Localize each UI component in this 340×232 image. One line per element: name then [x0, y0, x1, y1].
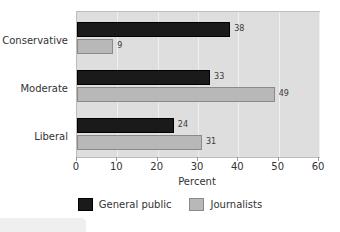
- legend-label: General public: [99, 199, 172, 210]
- x-tick-label-20: 20: [142, 161, 172, 172]
- bar-value-general-liberal: 24: [178, 117, 188, 132]
- category-label-liberal: Liberal: [0, 131, 68, 142]
- bar-general-liberal: [77, 118, 174, 133]
- cropped-corner-plate: [0, 218, 86, 232]
- x-tick-label-50: 50: [263, 161, 293, 172]
- category-label-moderate: Moderate: [0, 83, 68, 94]
- x-tick-label-60: 60: [303, 161, 333, 172]
- x-tick-label-10: 10: [101, 161, 131, 172]
- bar-general-conservative: [77, 22, 230, 37]
- legend-swatch-icon: [78, 198, 93, 211]
- bar-chart-figure: ConservativeModerateLiberal 38933492431 …: [0, 0, 340, 232]
- bar-general-moderate: [77, 70, 210, 85]
- bar-value-general-moderate: 33: [214, 69, 224, 84]
- bar-value-journalists-moderate: 49: [279, 86, 289, 101]
- x-axis-label: Percent: [76, 176, 318, 187]
- legend-entry-journalists[interactable]: Journalists: [189, 198, 262, 211]
- bar-value-journalists-liberal: 31: [206, 134, 216, 149]
- bar-value-journalists-conservative: 9: [117, 38, 122, 53]
- chart-legend: General publicJournalists: [0, 198, 340, 211]
- gridline: [319, 12, 320, 157]
- legend-entry-general-public[interactable]: General public: [78, 198, 172, 211]
- legend-swatch-icon: [189, 198, 204, 211]
- legend-label: Journalists: [210, 199, 262, 210]
- bar-journalists-liberal: [77, 135, 202, 150]
- x-tick-label-40: 40: [222, 161, 252, 172]
- cropped-title-fragment: [116, 0, 176, 2]
- x-tick-label-30: 30: [182, 161, 212, 172]
- gridline: [279, 12, 280, 157]
- bar-journalists-conservative: [77, 39, 113, 54]
- bar-value-general-conservative: 38: [234, 21, 244, 36]
- bar-journalists-moderate: [77, 87, 275, 102]
- category-label-conservative: Conservative: [0, 35, 68, 46]
- x-tick-label-0: 0: [61, 161, 91, 172]
- plot-area: [76, 11, 320, 158]
